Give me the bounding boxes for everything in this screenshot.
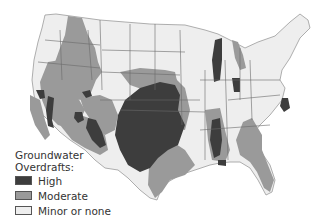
legend-item-moderate: Moderate	[15, 188, 111, 203]
moderate-region-florida-georgia	[236, 118, 274, 192]
high-region-carolina-coast	[280, 98, 290, 112]
legend-swatch-moderate	[15, 191, 32, 200]
legend-title-line1: Groundwater	[15, 149, 111, 161]
high-region-gulf-coast	[218, 160, 226, 166]
legend-swatch-minor	[15, 206, 32, 215]
legend-swatch-high	[15, 176, 32, 185]
legend-title-line2: Overdrafts:	[15, 161, 111, 173]
legend-label-high: High	[38, 175, 62, 187]
legend-label-moderate: Moderate	[38, 190, 88, 202]
legend-item-high: High	[15, 173, 111, 188]
legend-label-minor: Minor or none	[38, 205, 111, 217]
map-legend: Groundwater Overdrafts: High Moderate Mi…	[15, 149, 111, 218]
legend-item-minor: Minor or none	[15, 203, 111, 218]
